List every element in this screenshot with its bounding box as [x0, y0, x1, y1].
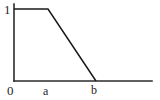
x-axis-label-a: a: [43, 85, 48, 97]
origin-label-zero: 0: [7, 84, 14, 97]
y-axis-label-one: 1: [4, 3, 11, 16]
plot-background: [0, 0, 160, 100]
x-axis-label-b: b: [91, 84, 97, 96]
plot-svg: [0, 0, 160, 100]
figure-canvas: 1 0 a b: [0, 0, 160, 100]
